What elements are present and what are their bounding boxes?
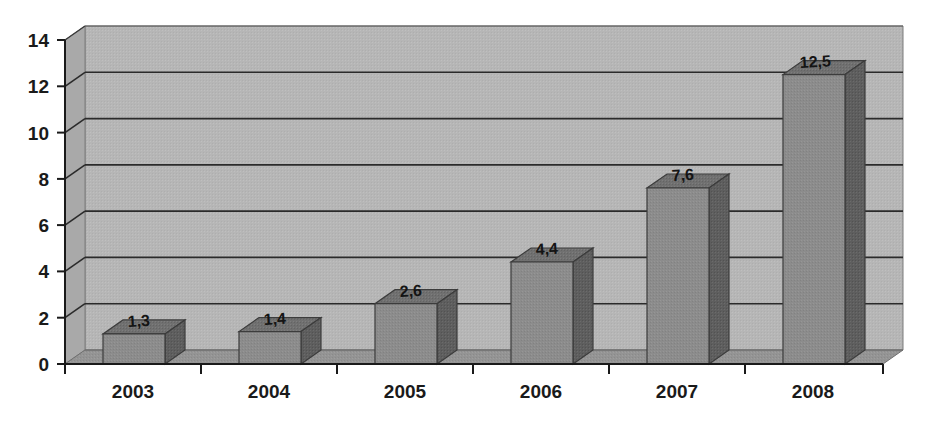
- x-tick-label-2006: 2006: [520, 381, 562, 402]
- bar-side-face: [845, 61, 865, 364]
- x-axis: 2003 2004 2005 2006 2007 2008: [65, 364, 883, 402]
- bar-front-face: [103, 334, 165, 364]
- y-tick-label-12: 12: [28, 76, 49, 97]
- y-tick-label-2: 2: [38, 308, 49, 329]
- bar-value-label-2005: 2,6: [399, 282, 422, 300]
- x-tick-label-2005: 2005: [384, 381, 427, 402]
- bar-front-face: [511, 262, 573, 364]
- x-tick-label-2007: 2007: [656, 381, 698, 402]
- bar-front-face: [375, 304, 437, 364]
- y-axis: 14 12 10 8 6 4 2 0: [28, 30, 65, 375]
- bar-front-face: [239, 332, 301, 364]
- bar-value-label-2007: 7,6: [671, 166, 694, 184]
- bar-front-face: [647, 188, 709, 364]
- chart-canvas: 1,3 1,4 2,6 4,4 7,6 12,5 14: [0, 0, 929, 432]
- bar-2006[interactable]: [511, 248, 593, 364]
- bar-side-face: [709, 174, 729, 364]
- bar-2005[interactable]: [375, 290, 457, 364]
- bar-side-face: [573, 248, 593, 364]
- bar-value-label-2008: 12,5: [799, 52, 831, 71]
- x-axis-category-labels: 2003 2004 2005 2006 2007 2008: [112, 381, 834, 402]
- y-tick-label-10: 10: [28, 123, 49, 144]
- y-axis-tick-labels: 14 12 10 8 6 4 2 0: [28, 30, 50, 375]
- x-tick-label-2008: 2008: [792, 381, 834, 402]
- y-tick-label-8: 8: [38, 169, 49, 190]
- y-tick-label-0: 0: [38, 354, 49, 375]
- y-axis-ticks: [57, 40, 65, 364]
- floor: [65, 350, 903, 364]
- x-axis-ticks: [65, 364, 883, 374]
- x-tick-label-2004: 2004: [248, 381, 291, 402]
- side-wall: [65, 26, 85, 364]
- bar-value-label-2006: 4,4: [535, 240, 558, 258]
- bar-chart: 1,3 1,4 2,6 4,4 7,6 12,5 14: [0, 0, 929, 432]
- bar-value-label-2003: 1,3: [127, 312, 150, 330]
- plot-area: 1,3 1,4 2,6 4,4 7,6 12,5: [65, 26, 903, 364]
- bar-2007[interactable]: [647, 174, 729, 364]
- y-tick-label-14: 14: [28, 30, 50, 51]
- y-tick-label-4: 4: [38, 261, 49, 282]
- bar-front-face: [783, 75, 845, 364]
- x-tick-label-2003: 2003: [112, 381, 154, 402]
- bar-value-label-2004: 1,4: [263, 310, 286, 328]
- back-wall: [85, 26, 903, 350]
- bar-2008[interactable]: [783, 61, 865, 364]
- y-tick-label-6: 6: [38, 215, 49, 236]
